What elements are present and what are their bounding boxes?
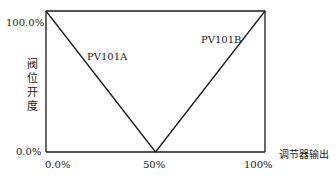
series-pv101a-line — [46, 11, 156, 152]
y-tick-0: 0.0% — [16, 146, 41, 158]
series-pv101b-line — [156, 11, 266, 152]
y-tick-100: 100.0% — [6, 17, 44, 29]
y-axis-label-char: 度 — [26, 100, 38, 114]
y-axis-label-char: 位 — [26, 72, 38, 86]
x-tick-100: 100% — [244, 159, 273, 171]
x-axis-label: 调节器输出 — [279, 146, 329, 161]
series-label-pv101a: PV101A — [87, 51, 127, 62]
y-axis-label-char: 阀 — [26, 58, 38, 72]
x-tick-50: 50% — [143, 159, 165, 171]
series-label-pv101b: PV101B — [201, 34, 241, 45]
y-axis-label: 阀 位 开 度 — [26, 58, 38, 114]
x-tick-0: 0.0% — [45, 159, 70, 171]
split-range-valve-chart: 100.0% 0.0% 阀 位 开 度 0.0% 50% 100% 调节器输出 … — [0, 0, 336, 181]
y-axis-label-char: 开 — [26, 86, 38, 100]
